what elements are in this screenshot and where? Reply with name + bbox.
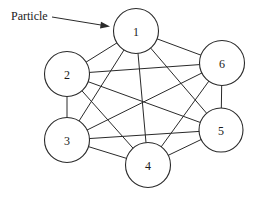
edge-3-5 — [67, 130, 221, 140]
particle-callout: Particle — [11, 9, 110, 29]
node-label: 5 — [218, 124, 224, 138]
node-label: 3 — [64, 134, 70, 148]
node-6: 6 — [200, 41, 245, 86]
node-label: 6 — [219, 57, 225, 71]
node-3: 3 — [45, 118, 90, 163]
particle-graph-diagram: 1 2 3 4 5 6 Particle — [0, 0, 255, 201]
node-label: 2 — [64, 68, 70, 82]
node-5: 5 — [199, 108, 243, 152]
node-4: 4 — [126, 143, 171, 188]
arrow-head-icon — [100, 22, 110, 29]
node-label: 4 — [145, 159, 151, 173]
callout-arrow-shaft — [52, 17, 104, 26]
node-1: 1 — [114, 9, 159, 54]
callout-label: Particle — [11, 9, 48, 23]
node-label: 1 — [133, 25, 139, 39]
node-2: 2 — [45, 52, 90, 97]
edge-2-6 — [67, 63, 222, 74]
